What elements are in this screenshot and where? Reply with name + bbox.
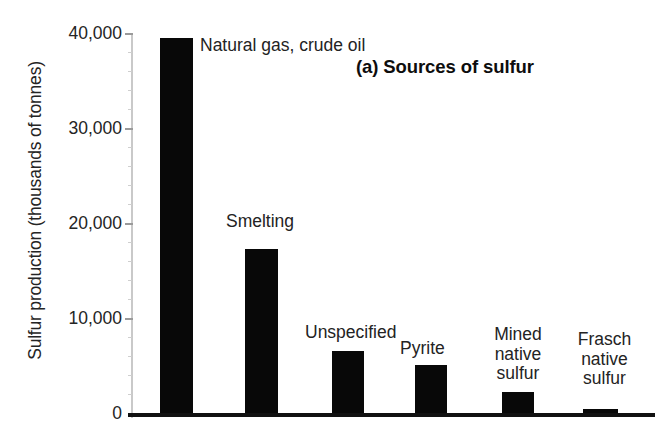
bar-label-smelting: Smelting — [226, 212, 336, 232]
bar-label-mined-native-sulfur: Mined native sulfur — [480, 325, 556, 384]
bar-label-frasch-line-1: Frasch — [562, 330, 647, 350]
bar-label-mined-line-3: sulfur — [480, 364, 556, 384]
y-axis-title: Sulfur production (thousands of tonnes) — [25, 11, 46, 411]
y-tick-label-40000: 40,000 — [2, 23, 122, 44]
panel-title: (a) Sources of sulfur — [356, 56, 534, 78]
y-tick-label-20000: 20,000 — [2, 213, 122, 234]
bar-natural-gas-crude-oil[interactable] — [160, 38, 193, 413]
bar-label-pyrite: Pyrite — [400, 339, 470, 359]
bar-label-frasch-native-sulfur: Frasch native sulfur — [562, 330, 647, 389]
bar-unspecified[interactable] — [332, 351, 364, 413]
bar-smelting[interactable] — [245, 249, 278, 413]
y-tick-label-30000: 30,000 — [2, 118, 122, 139]
bar-mined-native-sulfur[interactable] — [502, 392, 534, 413]
bar-frasch-native-sulfur[interactable] — [583, 409, 618, 413]
bar-label-frasch-line-3: sulfur — [562, 369, 647, 389]
y-tick-label-10000: 10,000 — [2, 308, 122, 329]
bar-label-mined-line-2: native — [480, 345, 556, 365]
bar-pyrite[interactable] — [415, 365, 447, 413]
bar-label-natural-gas-crude-oil: Natural gas, crude oil — [200, 36, 410, 56]
bar-label-frasch-line-2: native — [562, 350, 647, 370]
bar-label-mined-line-1: Mined — [480, 325, 556, 345]
y-tick-label-0: 0 — [2, 403, 122, 424]
sulfur-sources-bar-chart: Sulfur production (thousands of tonnes) … — [0, 0, 665, 446]
